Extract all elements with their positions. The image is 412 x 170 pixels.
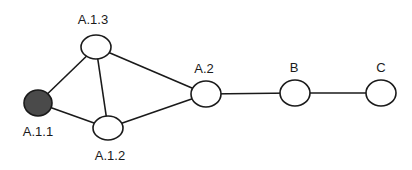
node-label-a-1-2: A.1.2 <box>95 148 125 163</box>
node-label-c: C <box>376 60 385 75</box>
node-label-a-2: A.2 <box>194 61 214 76</box>
node-a-1-3 <box>81 35 111 59</box>
node-label-a-1-1: A.1.1 <box>23 124 53 139</box>
node-a-1-2 <box>93 116 123 140</box>
node-a-2 <box>191 81 221 107</box>
network-diagram: A.1.1A.1.2A.1.3A.2BC <box>0 0 412 170</box>
node-label-b: B <box>290 60 299 75</box>
node-a-1-1 <box>24 90 52 116</box>
nodes-layer <box>24 35 396 140</box>
node-c <box>366 80 396 106</box>
edge-a-1-3-to-a-2 <box>96 47 206 94</box>
node-label-a-1-3: A.1.3 <box>78 12 108 27</box>
node-b <box>280 80 310 106</box>
